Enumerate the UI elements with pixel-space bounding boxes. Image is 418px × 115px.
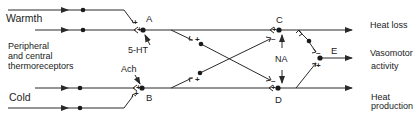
- sign-minus-e: –: [316, 49, 320, 57]
- node-e-label: E: [331, 45, 337, 56]
- sign-minus-d: –: [271, 77, 275, 85]
- sign-minus-c: –: [271, 35, 275, 43]
- sign-plus-ia: +: [195, 36, 200, 44]
- interneuron-b-to-c: [200, 39, 270, 73]
- node-c-label: C: [276, 14, 283, 25]
- acetylcholine-label: Ach: [121, 64, 137, 74]
- vasomotor-label-1: Vasomotor: [370, 48, 413, 58]
- vasomotor-label-2: activity: [371, 61, 399, 71]
- node-b-label: B: [146, 92, 152, 103]
- pathway-diagram: [0, 0, 418, 115]
- receptors-label-1: Peripheral: [8, 41, 49, 51]
- interneuron-a-to-d: [201, 44, 270, 80]
- sign-plus-e: +: [316, 62, 321, 70]
- serotonin-label: 5-HT: [128, 45, 148, 55]
- heat-loss-label: Heat loss: [370, 20, 408, 30]
- sign-plus-a2: +: [137, 26, 142, 34]
- node-d: [275, 85, 280, 90]
- cold-label: Cold: [9, 92, 31, 102]
- sign-plus-d: +: [271, 84, 276, 92]
- 5ht-arrow: [145, 35, 150, 45]
- receptors-label-2: and central: [8, 51, 53, 61]
- node-c: [276, 27, 281, 32]
- sign-plus-c: +: [272, 26, 277, 34]
- node-a-label: A: [146, 13, 152, 24]
- sign-plus-ib: +: [195, 76, 200, 84]
- noradrenaline-label: NA: [275, 54, 288, 64]
- warmth-label: Warmth: [6, 13, 42, 23]
- node-d-label: D: [275, 94, 282, 105]
- sign-plus-b2: +: [134, 90, 139, 98]
- receptors-label-3: thermoreceptors: [8, 61, 74, 71]
- heat-production-label-2: production: [371, 101, 413, 111]
